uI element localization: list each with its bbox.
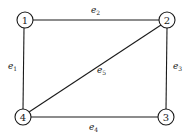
edge-e5	[29, 25, 161, 112]
edge-label-e3: e3	[173, 61, 182, 72]
edge-label-e4: e4	[89, 122, 98, 133]
node-4: 4	[15, 109, 31, 125]
svg-text:1: 1	[22, 15, 28, 26]
node-1: 1	[17, 12, 33, 28]
edge-label-e1: e1	[8, 61, 17, 72]
svg-text:3: 3	[163, 112, 169, 123]
edge-e1	[23, 28, 24, 109]
edge-e3	[166, 28, 167, 109]
svg-text:2: 2	[164, 15, 170, 26]
graph-diagram: e2 e1 e3 e4 e5 1 2 3 4	[0, 0, 192, 134]
edge-label-e5: e5	[97, 65, 106, 76]
node-2: 2	[159, 12, 175, 28]
edge-label-e2: e2	[91, 5, 100, 16]
svg-text:4: 4	[20, 112, 26, 123]
node-3: 3	[158, 109, 174, 125]
